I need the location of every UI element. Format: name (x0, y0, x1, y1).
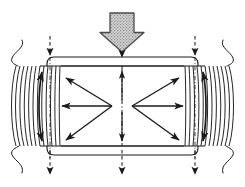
diagram-canvas (0, 0, 245, 187)
compression-diagram-figure (0, 0, 245, 187)
